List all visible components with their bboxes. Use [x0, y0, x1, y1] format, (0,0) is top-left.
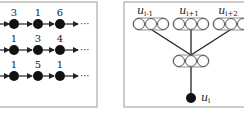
node-value: 3: [11, 7, 17, 18]
sequence-node: [9, 45, 19, 55]
unit-circle: [186, 56, 197, 67]
unit-circle: [174, 56, 185, 67]
unit-circle: [146, 19, 157, 30]
sequence-node: [33, 19, 43, 29]
embedding-label: ui-1: [137, 4, 153, 18]
sequence-panel: 3 1 6 ··· 1 3 4 ··· 1: [0, 2, 97, 107]
unit-circle: [226, 19, 237, 30]
sequence-row-1: 3 1 6 ···: [0, 7, 90, 29]
sequence-node: [9, 19, 19, 29]
sequence-node: [33, 45, 43, 55]
embedding-group-u-i-plus-1: ui+1: [173, 4, 209, 30]
embedding-group-u-i-minus-1: ui-1: [133, 4, 169, 30]
figure-canvas: 3 1 6 ··· 1 3 4 ··· 1: [0, 0, 244, 114]
unit-circle: [198, 19, 209, 30]
unit-circle: [134, 19, 145, 30]
hidden-layer-group: [173, 55, 209, 67]
ellipsis: ···: [80, 70, 90, 81]
unit-circle: [238, 19, 245, 30]
network-panel: ui-1 ui+1 ui+2: [124, 2, 244, 107]
node-value: 1: [11, 59, 17, 70]
sequence-node: [55, 71, 65, 81]
unit-circle: [186, 19, 197, 30]
sequence-node: [55, 19, 65, 29]
node-value: 1: [35, 7, 41, 18]
output-node-u-i: ui: [186, 91, 211, 105]
sequence-row-3: 1 5 1 ···: [0, 59, 90, 81]
output-node: [186, 93, 196, 103]
connection-line: [191, 30, 230, 55]
embedding-label: ui+1: [179, 4, 199, 18]
ellipsis: ···: [80, 18, 90, 29]
sequence-node: [9, 71, 19, 81]
sequence-row-2: 1 3 4 ···: [0, 33, 90, 55]
unit-circle: [174, 19, 185, 30]
ellipsis: ···: [80, 44, 90, 55]
connection-line: [152, 30, 191, 55]
sequence-node: [33, 71, 43, 81]
node-value: 1: [11, 33, 17, 44]
embedding-group-u-i-plus-2: ui+2: [213, 4, 244, 30]
node-value: 1: [57, 59, 63, 70]
unit-circle: [158, 19, 169, 30]
embedding-label: ui+2: [218, 4, 238, 18]
node-value: 5: [35, 59, 41, 70]
unit-circle: [214, 19, 225, 30]
node-value: 6: [57, 7, 63, 18]
node-value: 4: [57, 33, 63, 44]
node-value: 3: [35, 33, 41, 44]
output-label: ui: [201, 91, 211, 105]
sequence-node: [55, 45, 65, 55]
unit-circle: [198, 56, 209, 67]
